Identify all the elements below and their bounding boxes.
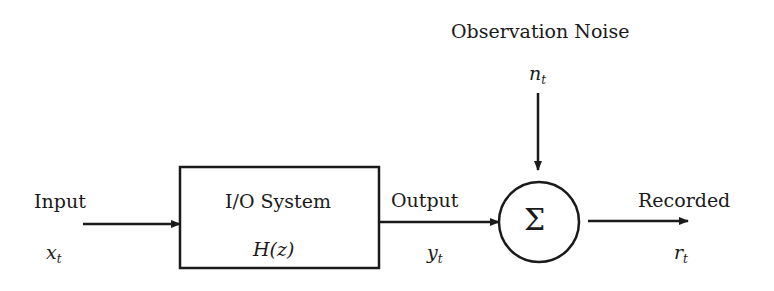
- input-label: Input: [34, 192, 86, 211]
- sigma-symbol: Σ: [524, 205, 545, 235]
- transfer-function: H(z): [253, 240, 294, 259]
- input-symbol: xt: [46, 243, 62, 265]
- output-symbol: yt: [427, 243, 443, 265]
- recorded-label: Recorded: [638, 191, 730, 210]
- system-label: I/O System: [225, 192, 331, 211]
- noise-label: Observation Noise: [451, 22, 629, 41]
- diagram-wires: [0, 0, 774, 291]
- recorded-symbol: rt: [674, 243, 688, 265]
- noise-symbol: nt: [529, 64, 546, 86]
- output-label: Output: [391, 191, 458, 210]
